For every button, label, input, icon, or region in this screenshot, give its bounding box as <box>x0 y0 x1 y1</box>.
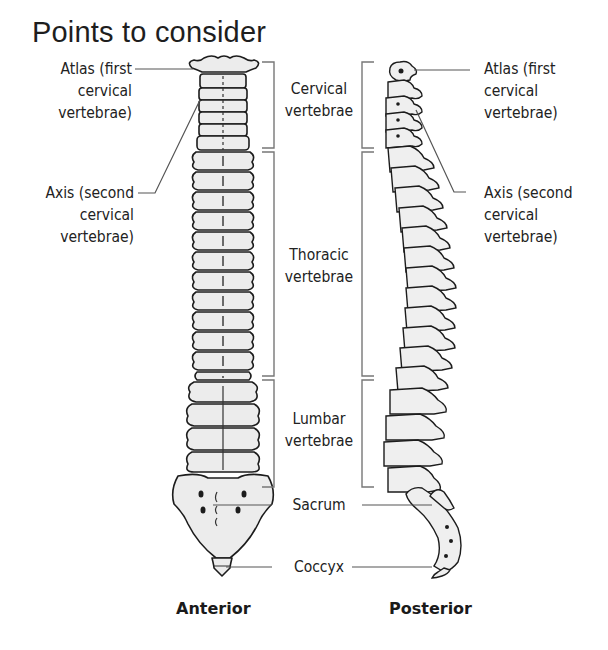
label-anterior-atlas: Atlas (first cervical vertebrae) <box>14 58 132 124</box>
label-sacrum: Sacrum <box>276 494 362 516</box>
leader-anterior-axis <box>138 100 200 193</box>
label-thoracic-vertebrae: Thoracic vertebrae <box>276 244 362 288</box>
label-posterior-axis: Axis (second cervical vertebrae) <box>484 182 608 248</box>
caption-anterior: Anterior <box>176 599 251 618</box>
label-lumbar-vertebrae: Lumbar vertebrae <box>276 408 362 452</box>
label-cervical-vertebrae: Cervical vertebrae <box>276 78 362 122</box>
posterior-spine <box>384 62 461 579</box>
caption-posterior: Posterior <box>389 599 472 618</box>
label-coccyx: Coccyx <box>276 556 362 578</box>
label-posterior-atlas: Atlas (first cervical vertebrae) <box>484 58 604 124</box>
anterior-spine <box>173 56 274 576</box>
label-anterior-axis: Axis (second cervical vertebrae) <box>6 182 134 248</box>
